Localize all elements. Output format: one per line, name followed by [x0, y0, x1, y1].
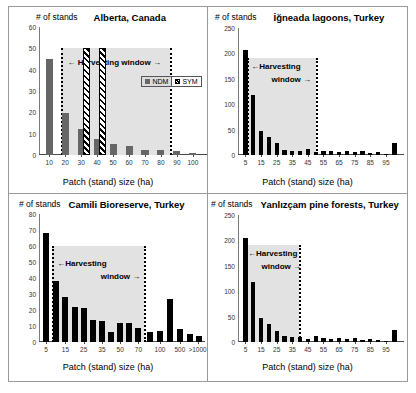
x-tick: 25: [80, 342, 87, 353]
panel-yanlizcam: # of stands Yanlızçam pine forests, Turk…: [208, 194, 407, 381]
y-tick: 50: [29, 259, 39, 266]
legend-label-ndm: NDM: [152, 78, 168, 85]
harvesting-window-end: [170, 48, 172, 155]
y-tick: 50: [228, 313, 238, 320]
bar: [72, 307, 78, 342]
legend: NDM SYM: [141, 76, 201, 87]
harvesting-window-end: [316, 58, 318, 155]
panel-camili: # of stands Camili Bioreserve, Turkey 0 …: [9, 194, 208, 381]
bar: [298, 337, 302, 342]
harvesting-window-band: [247, 58, 316, 155]
y-tick: 60: [29, 243, 39, 250]
x-tick: 15: [257, 155, 264, 166]
y-tick: 200: [224, 50, 238, 57]
harvesting-window-label-line1: ←Harvesting: [251, 62, 300, 72]
y-tick: 250: [224, 25, 238, 32]
bar: [167, 299, 173, 342]
bar: [157, 331, 163, 342]
x-axis-label: Patch (stand) size (ha): [9, 362, 207, 372]
x-tick: 30: [78, 155, 85, 166]
x-tick: 70: [135, 342, 142, 353]
harvesting-window-label-line2: window →: [57, 272, 140, 282]
x-tick: 90: [173, 155, 180, 166]
x-tick: 25: [273, 342, 280, 353]
harvesting-window-end: [144, 246, 146, 342]
bar: [117, 323, 123, 342]
y-tick: 0: [32, 339, 39, 346]
plot-area-yanlizcam: 0 50 100 150 200 250 ←Harvesting window …: [238, 215, 404, 342]
panel-header: # of stands Alberta, Canada: [9, 10, 207, 24]
harvesting-window-label-line2: window →: [251, 75, 311, 85]
x-tick: 45: [304, 155, 311, 166]
y-axis-line: [39, 214, 40, 342]
panel-header: # of stands Yanlızçam pine forests, Turk…: [208, 197, 407, 211]
bar: [275, 331, 279, 342]
x-tick: 85: [367, 155, 374, 166]
x-tick: 40: [94, 155, 101, 166]
x-tick: 25: [273, 155, 280, 166]
bar-ndm: [62, 113, 69, 155]
bar: [177, 329, 183, 342]
y-axis-line: [238, 28, 239, 155]
y-tick: 20: [29, 109, 39, 116]
x-tick: 85: [367, 342, 374, 353]
legend-swatch-ndm-icon: [145, 79, 150, 84]
x-tick: 100: [155, 342, 166, 353]
x-tick: 80: [157, 155, 164, 166]
x-tick: 75: [351, 342, 358, 353]
x-tick: 10: [46, 155, 53, 166]
x-tick: >1000: [188, 342, 206, 353]
y-tick: 100: [224, 288, 238, 295]
bar: [392, 143, 396, 155]
x-tick: 5: [44, 342, 48, 353]
y-tick: 100: [224, 101, 238, 108]
y-tick: 10: [29, 130, 39, 137]
y-tick: 150: [224, 75, 238, 82]
bar-sym: [83, 48, 90, 155]
y-tick: 0: [231, 152, 238, 159]
x-tick: 60: [125, 155, 132, 166]
panel-title: Alberta, Canada: [94, 12, 166, 23]
bar: [135, 328, 141, 342]
x-tick: 50: [117, 342, 124, 353]
x-tick: 35: [289, 155, 296, 166]
bar: [147, 332, 153, 342]
x-tick: 15: [62, 342, 69, 353]
bar: [298, 151, 302, 155]
y-tick: 250: [224, 212, 238, 219]
bar-sym: [99, 48, 106, 155]
y-tick: 30: [29, 291, 39, 298]
bar: [62, 297, 68, 342]
x-tick: 95: [382, 155, 389, 166]
y-axis-caption: # of stands: [215, 12, 257, 22]
panel-header: # of stands Camili Bioreserve, Turkey: [9, 197, 207, 211]
harvesting-window-end: [299, 245, 301, 342]
y-tick: 50: [29, 45, 39, 52]
bar: [259, 131, 263, 155]
four-panel-histogram-figure: # of stands Alberta, Canada 0 10 20 30 4…: [0, 0, 416, 393]
bar: [267, 137, 271, 155]
y-tick: 150: [224, 262, 238, 269]
y-tick: 0: [32, 152, 39, 159]
y-tick: 80: [29, 211, 39, 218]
y-tick: 30: [29, 88, 39, 95]
y-tick: 40: [29, 66, 39, 73]
y-axis-caption: # of stands: [211, 199, 253, 209]
plot-area-alberta: 0 10 20 30 40 50 60 ← Harvesting window …: [39, 27, 207, 155]
x-tick: 5: [244, 155, 248, 166]
legend-label-sym: SYM: [182, 78, 197, 85]
x-tick: 20: [62, 155, 69, 166]
bar: [99, 321, 105, 342]
legend-swatch-sym-icon: [175, 79, 180, 84]
panel-title: Yanlızçam pine forests, Turkey: [261, 199, 399, 210]
y-tick: 200: [224, 237, 238, 244]
bar: [90, 320, 96, 342]
panel-title: Camili Bioreserve, Turkey: [69, 199, 185, 210]
x-tick: 5: [244, 342, 248, 353]
x-tick: 50: [109, 155, 116, 166]
y-tick: 20: [29, 307, 39, 314]
bar: [360, 151, 364, 155]
bar: [392, 330, 396, 342]
y-axis-line: [238, 215, 239, 342]
bar: [243, 238, 247, 342]
